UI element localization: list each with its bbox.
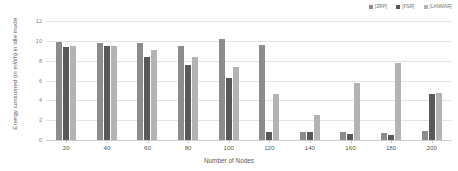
bar[interactable]: [273, 94, 279, 140]
y-axis-tick-label: 2: [26, 117, 42, 123]
bar[interactable]: [185, 65, 191, 140]
bar[interactable]: [144, 57, 150, 140]
legend-swatch-icon: [396, 5, 400, 9]
bar[interactable]: [307, 132, 313, 140]
bar[interactable]: [233, 67, 239, 140]
bar[interactable]: [354, 83, 360, 140]
bar[interactable]: [178, 46, 184, 140]
bar[interactable]: [219, 39, 225, 140]
bar[interactable]: [137, 43, 143, 140]
bar[interactable]: [259, 45, 265, 140]
bar-group: [290, 21, 331, 140]
bar-group: [168, 21, 209, 140]
bar[interactable]: [436, 93, 442, 140]
bar[interactable]: [192, 57, 198, 140]
bar[interactable]: [97, 43, 103, 140]
bar[interactable]: [314, 115, 320, 140]
y-axis-tick-label: 10: [26, 38, 42, 44]
bar[interactable]: [422, 131, 428, 140]
x-axis-tick-label: 200: [417, 144, 447, 152]
legend-entry[interactable]: [LANMAR]: [424, 4, 453, 10]
bar[interactable]: [56, 42, 62, 140]
x-axis-tick-mark: [432, 140, 433, 143]
legend-label: [ZRP]: [375, 4, 387, 10]
bar[interactable]: [340, 132, 346, 140]
bar[interactable]: [70, 46, 76, 140]
bar-group: [249, 21, 290, 140]
y-axis-tick-labels: 024681012: [22, 0, 46, 171]
bar[interactable]: [151, 50, 157, 140]
x-axis-tick-label: 80: [173, 144, 203, 152]
x-axis-tick-mark: [351, 140, 352, 143]
bar-group: [46, 21, 87, 140]
y-axis-tick-label: 4: [26, 97, 42, 103]
x-axis-tick-mark: [229, 140, 230, 143]
y-axis-title-text: Energy consumed (in mWh) in idle mode: [11, 18, 19, 130]
legend-label: [FSR]: [402, 4, 414, 10]
bar[interactable]: [104, 46, 110, 140]
bar-group: [371, 21, 412, 140]
y-axis-tick-label: 6: [26, 78, 42, 84]
x-axis-tick-label: 140: [295, 144, 325, 152]
bar-group: [208, 21, 249, 140]
x-axis-tick-label: 40: [92, 144, 122, 152]
bar[interactable]: [429, 94, 435, 140]
y-axis-tick-label: 8: [26, 58, 42, 64]
chart-legend: [ZRP][FSR][LANMAR]: [369, 2, 452, 12]
bar-group: [127, 21, 168, 140]
bar[interactable]: [266, 132, 272, 140]
x-axis-tick-mark: [107, 140, 108, 143]
legend-entry[interactable]: [FSR]: [396, 4, 414, 10]
x-axis-tick-label: 100: [214, 144, 244, 152]
y-axis-tick-label: 0: [26, 137, 42, 143]
bar[interactable]: [381, 133, 387, 140]
y-axis-tick-label: 12: [26, 18, 42, 24]
x-axis-tick-label: 60: [133, 144, 163, 152]
legend-label: [LANMAR]: [430, 4, 453, 10]
x-axis-tick-mark: [310, 140, 311, 143]
bar[interactable]: [395, 63, 401, 140]
bar-group: [87, 21, 128, 140]
x-axis-tick-label: 180: [376, 144, 406, 152]
legend-entry[interactable]: [ZRP]: [369, 4, 387, 10]
x-axis-tick-mark: [269, 140, 270, 143]
x-axis-tick-mark: [391, 140, 392, 143]
bar[interactable]: [63, 47, 69, 140]
bar[interactable]: [226, 78, 232, 140]
legend-swatch-icon: [424, 5, 428, 9]
bar-group: [330, 21, 371, 140]
energy-consumption-bar-chart: [ZRP][FSR][LANMAR] Energy consumed (in m…: [0, 0, 458, 171]
bar[interactable]: [111, 46, 117, 140]
bar[interactable]: [300, 132, 306, 140]
x-axis-tick-mark: [148, 140, 149, 143]
legend-swatch-icon: [369, 5, 373, 9]
x-axis-tick-label: 20: [51, 144, 81, 152]
x-axis-tick-label: 160: [336, 144, 366, 152]
x-axis-tick-mark: [66, 140, 67, 143]
x-axis-tick-label: 120: [254, 144, 284, 152]
x-axis-title: Number of Nodes: [0, 157, 458, 164]
x-axis-tick-mark: [188, 140, 189, 143]
bars-layer: [46, 21, 452, 140]
bar-group: [411, 21, 452, 140]
